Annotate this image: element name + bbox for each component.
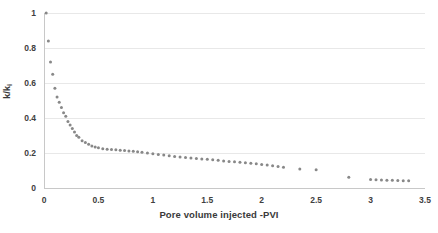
data-point (157, 153, 160, 156)
y-axis-title: k/ki (1, 72, 12, 112)
data-point (132, 150, 135, 153)
data-point (228, 160, 231, 163)
data-point (217, 159, 220, 162)
data-point (369, 178, 372, 181)
chart-container: 00.20.40.60.81 00.511.522.533.5 Pore vol… (0, 0, 438, 233)
data-point (60, 106, 63, 109)
y-tick-label: 0.4 (10, 113, 36, 123)
x-tick-label: 1.5 (192, 195, 222, 205)
data-point (277, 165, 280, 168)
y-tick-label: 1 (10, 8, 36, 18)
data-point (298, 168, 301, 171)
data-point (391, 179, 394, 182)
x-tick-label: 2.5 (301, 195, 331, 205)
y-tick-label: 0.6 (10, 78, 36, 88)
data-point (385, 179, 388, 182)
gridlines (44, 13, 425, 153)
data-point (315, 168, 318, 171)
data-point (101, 147, 104, 150)
x-tick-label: 0.5 (83, 195, 113, 205)
data-point (114, 148, 117, 151)
data-point (249, 162, 252, 165)
data-point (97, 146, 100, 149)
data-point (151, 152, 154, 155)
data-point (244, 161, 247, 164)
data-point (106, 148, 109, 151)
data-point (179, 156, 182, 159)
data-point (62, 111, 65, 114)
data-point (73, 131, 76, 134)
data-point (206, 158, 209, 161)
y-tick-label: 0.8 (10, 43, 36, 53)
data-point (77, 136, 80, 139)
data-point (123, 149, 126, 152)
data-point (260, 163, 263, 166)
data-point (81, 139, 84, 142)
x-axis-title: Pore volume injected -PVI (0, 209, 438, 220)
data-point (233, 160, 236, 163)
data-point (173, 155, 176, 158)
data-point (58, 101, 61, 104)
data-point (282, 166, 285, 169)
data-point (45, 12, 48, 15)
data-point (402, 179, 405, 182)
data-point (162, 154, 165, 157)
data-point (127, 149, 130, 152)
data-point (184, 156, 187, 159)
data-point (140, 151, 143, 154)
data-point (87, 143, 90, 146)
data-point (347, 176, 350, 179)
data-point (407, 179, 410, 182)
data-point (136, 150, 139, 153)
x-tick-label: 0 (29, 195, 59, 205)
data-point (266, 164, 269, 167)
data-point (211, 158, 214, 161)
data-point (238, 161, 241, 164)
data-point (90, 145, 93, 148)
data-point (255, 162, 258, 165)
data-point (195, 157, 198, 160)
x-tick-label: 3.5 (410, 195, 438, 205)
y-axis-title-main: k/k (1, 86, 12, 99)
data-point (168, 154, 171, 157)
data-point (66, 120, 69, 123)
data-point (189, 157, 192, 160)
data-point (271, 164, 274, 167)
data-point (200, 157, 203, 160)
data-point (375, 178, 378, 181)
data-point (69, 124, 72, 127)
data-point (64, 115, 67, 118)
y-tick-label: 0 (10, 183, 36, 193)
data-point (49, 61, 52, 64)
data-point (396, 179, 399, 182)
data-points (45, 12, 410, 183)
x-tick-label: 1 (138, 195, 168, 205)
data-point (119, 149, 122, 152)
data-point (380, 178, 383, 181)
data-point (56, 96, 59, 99)
y-tick-label: 0.2 (10, 148, 36, 158)
data-point (84, 141, 87, 144)
data-point (51, 73, 54, 76)
data-point (110, 148, 113, 151)
x-tick-label: 3 (356, 195, 386, 205)
data-point (146, 152, 149, 155)
data-point (71, 127, 74, 130)
data-point (94, 145, 97, 148)
data-point (222, 159, 225, 162)
data-point (53, 87, 56, 90)
data-point (47, 40, 50, 43)
x-tick-label: 2 (247, 195, 277, 205)
